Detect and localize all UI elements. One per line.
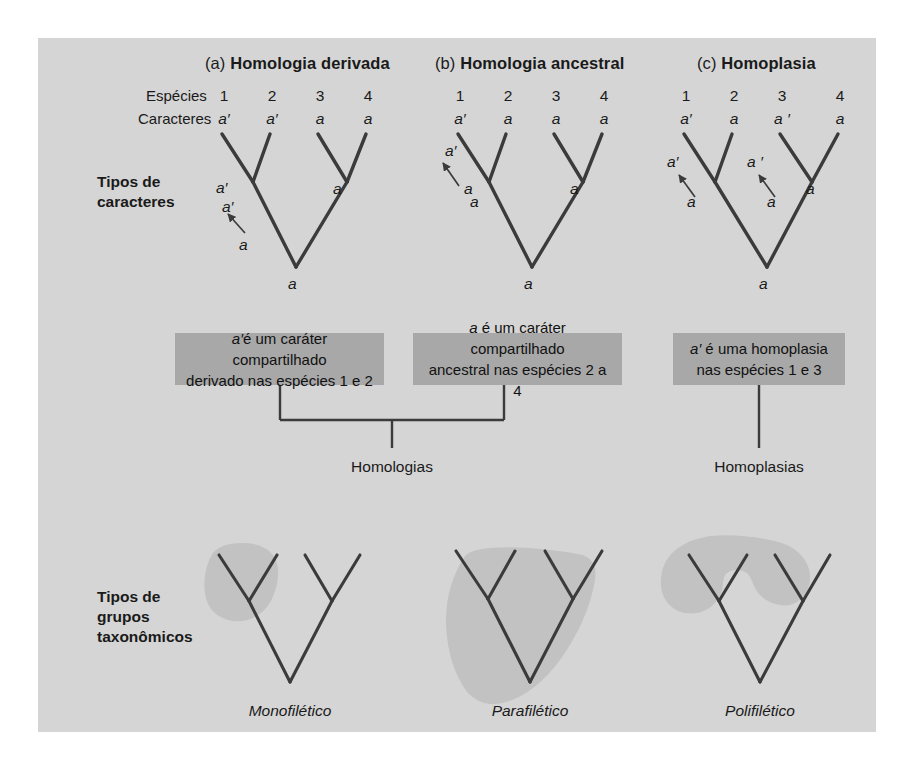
- callout-derived-character: a′é um caráter compartilhado derivado na…: [175, 333, 384, 385]
- callout-homoplasy-line1-rest: é uma homoplasia: [701, 340, 828, 357]
- callout-derived-line2: derivado nas espécies 1 e 2: [185, 370, 374, 391]
- change-arrow-a: [228, 214, 245, 233]
- callout-homoplasy-line2: nas espécies 1 e 3: [690, 359, 828, 380]
- callout-ancestral-line1-rest: é um caráter compartilhado: [470, 319, 565, 357]
- tree-b-root-label: a: [524, 275, 533, 293]
- tree-a-node-label-3: a: [239, 236, 248, 254]
- callout-ancestral-line2: ancestral nas espécies 2 a 4: [423, 359, 612, 401]
- monophyletic-blob: [204, 543, 278, 621]
- group-caption-polyphyletic: Polifilético: [690, 702, 830, 720]
- callout-derived-line1: a′é um caráter compartilhado: [185, 328, 374, 370]
- figure-root: (a) Homologia derivada (b) Homologia anc…: [0, 0, 913, 760]
- callout-ancestral-character: a é um caráter compartilhado ancestral n…: [413, 333, 622, 385]
- tree-b-node-label-3: a: [470, 193, 479, 211]
- callout-ancestral-line1: a é um caráter compartilhado: [423, 317, 612, 359]
- category-label-homologies: Homologias: [322, 458, 462, 476]
- category-label-homoplasies: Homoplasias: [689, 458, 829, 476]
- change-arrow-b: [443, 163, 459, 186]
- tree-a-root-label: a: [288, 275, 297, 293]
- tree-a-node-label-2: a′: [222, 198, 234, 216]
- tree-c-node-label-1: a′: [667, 153, 679, 171]
- tree-a-node-label-1: a′: [216, 179, 228, 197]
- callout-derived-line1-rest: é um caráter compartilhado: [232, 330, 327, 368]
- tree-c-node-label-5: a: [806, 180, 815, 198]
- tree-c-root-label: a: [759, 275, 768, 293]
- tree-b: [458, 134, 602, 267]
- tree-b-node-label-1: a′: [445, 142, 457, 160]
- callout-derived-symbol: a′: [232, 330, 243, 347]
- callout-homoplasy-line1: a′ é uma homoplasia: [690, 338, 828, 359]
- tree-a-node-label-4: a: [333, 180, 342, 198]
- tree-c-node-label-2: a: [687, 193, 696, 211]
- callout-homoplasy: a′ é uma homoplasia nas espécies 1 e 3: [673, 333, 845, 385]
- group-highlight-blobs: [204, 535, 810, 704]
- tree-c-node-label-4: a: [767, 193, 776, 211]
- tree-c-node-label-3: a ′: [747, 153, 763, 171]
- group-caption-monophyletic: Monofilético: [220, 702, 360, 720]
- callout-homoplasy-symbol: a′: [690, 340, 701, 357]
- tree-b-node-label-4: a: [570, 180, 579, 198]
- group-caption-paraphyletic: Parafilético: [460, 702, 600, 720]
